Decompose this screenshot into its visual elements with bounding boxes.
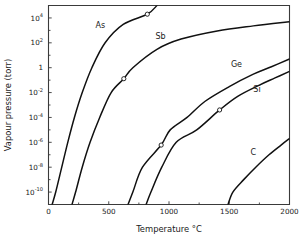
- series-label-ge: Ge: [231, 60, 242, 69]
- data-marker-ge: [159, 143, 163, 147]
- y-axis-title: Vapour pressure (torr): [3, 59, 13, 152]
- data-marker-sb: [122, 77, 126, 81]
- series-label-si: Si: [253, 85, 260, 94]
- y-tick-label: 10-10: [26, 186, 43, 196]
- vapour-pressure-chart-figure: 0500100015002000104102110-210-410-610-81…: [0, 0, 305, 239]
- y-tick-label: 10-6: [29, 137, 43, 147]
- x-tick-label: 1000: [160, 207, 179, 216]
- y-tick-label: 104: [31, 12, 43, 22]
- plot-frame: [49, 6, 290, 205]
- y-tick-label: 10-4: [29, 112, 43, 122]
- data-curves-group: [52, 6, 289, 205]
- data-marker-si: [218, 108, 222, 112]
- y-tick-label: 1: [38, 63, 43, 72]
- curve-sb: [72, 22, 290, 205]
- x-tick-label: 2000: [280, 207, 299, 216]
- x-axis-title: Temperature °C: [135, 224, 202, 234]
- curve-c: [228, 139, 289, 205]
- chart-plot-area: 0500100015002000104102110-210-410-610-81…: [0, 0, 305, 239]
- series-label-sb: Sb: [155, 32, 165, 41]
- curve-ge: [128, 59, 289, 205]
- x-tick-label: 1500: [220, 207, 239, 216]
- y-tick-label: 10-2: [29, 87, 43, 97]
- chart-text-labels-group: 0500100015002000104102110-210-410-610-81…: [3, 12, 299, 234]
- series-label-c: C: [251, 148, 257, 157]
- y-tick-label: 10-8: [29, 162, 43, 172]
- data-marker-as: [145, 12, 149, 16]
- axis-ticks-group: [49, 6, 290, 205]
- x-tick-label: 0: [46, 207, 51, 216]
- curve-si: [146, 71, 289, 204]
- x-tick-label: 500: [102, 207, 116, 216]
- series-label-as: As: [95, 21, 105, 30]
- axis-frame: [49, 6, 290, 205]
- y-tick-label: 102: [31, 37, 43, 47]
